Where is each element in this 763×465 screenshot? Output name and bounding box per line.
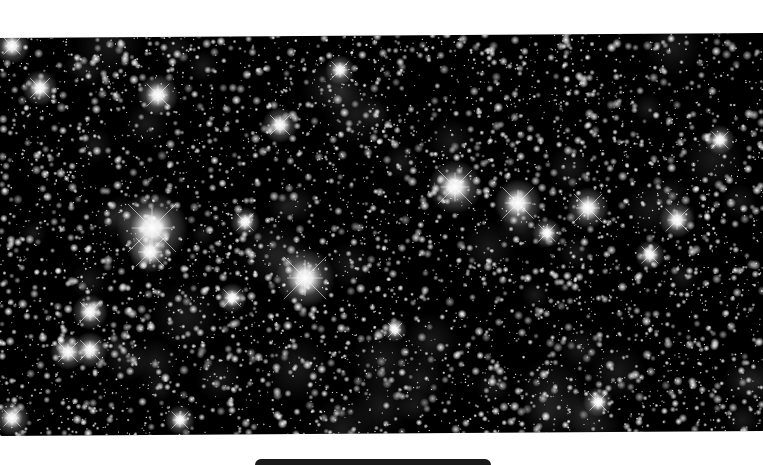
bottom-dark-bar	[255, 459, 491, 465]
